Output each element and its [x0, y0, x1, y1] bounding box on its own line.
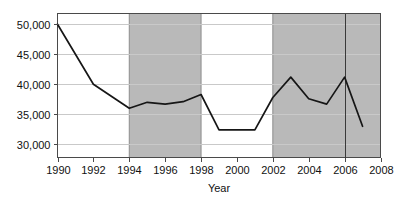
line-chart: 30,00035,00040,00045,00050,000 199019921… — [0, 0, 396, 200]
x-tick-label: 2008 — [369, 164, 393, 176]
y-tick-label: 35,000 — [17, 109, 51, 121]
x-tick-label: 1996 — [153, 164, 177, 176]
y-tick-label: 30,000 — [17, 139, 51, 151]
x-tick-label: 2002 — [261, 164, 285, 176]
x-tick-label: 2006 — [333, 164, 357, 176]
y-tick-label: 40,000 — [17, 79, 51, 91]
band-1994-1998 — [129, 14, 201, 158]
x-axis-title: Year — [208, 182, 231, 194]
chart-canvas: 30,00035,00040,00045,00050,000 199019921… — [0, 0, 396, 200]
x-tick-label: 2000 — [225, 164, 249, 176]
x-tick-label: 2004 — [297, 164, 321, 176]
y-tick-label: 45,000 — [17, 49, 51, 61]
x-tick-label: 1990 — [46, 164, 70, 176]
band-2002-2008 — [273, 14, 381, 158]
y-tick-label: 50,000 — [17, 19, 51, 31]
x-tick-label: 1998 — [189, 164, 213, 176]
x-tick-label: 1992 — [81, 164, 105, 176]
x-tick-label: 1994 — [117, 164, 141, 176]
